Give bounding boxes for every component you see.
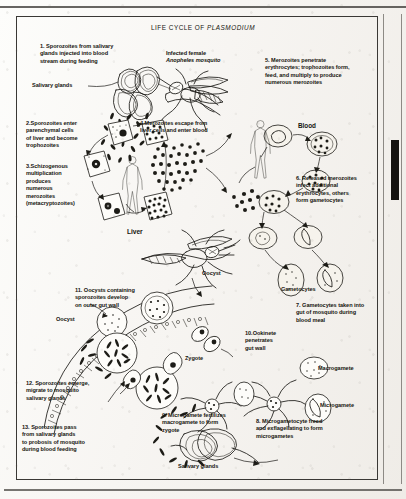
erythrocyte-series-art [232,125,343,296]
step-4-text: Merozoites escape from liver cells and e… [140,120,208,133]
arrow-merozoites-to-blood [206,136,230,156]
scan-top-rule [0,6,406,8]
step-9-callout: 9. Microgamete fertilizes macrogamete to… [162,412,252,434]
leader-oocyst-pointer [192,278,200,294]
rbc-ring-stage [264,125,292,147]
step-12-callout: 12. Sporozoites emerge, migrate to mosqu… [26,380,118,402]
free-merozoites-blood [232,189,260,212]
step-6-text: Released merozoites infect additional er… [296,175,357,203]
gametocytes-label: Gametocytes [281,286,316,293]
merozoite-burst-cloud [151,142,205,192]
salivary-glands-top-label: Salivary glands [32,82,72,89]
step-3-callout: 3.Schizogenous multiplication produces n… [26,163,102,207]
step-9-text: Microgamete fertilizes macrogamete to fo… [162,412,226,433]
step-12-number: 12. [26,380,34,386]
gametocyte-micro [317,264,343,292]
step-6-callout: 6. Released merozoites infect additional… [296,175,388,205]
leader-blood-label [261,147,267,157]
step-3-text: Schizogenous multiplication produces num… [26,163,75,206]
step-8-callout: 8. Microgametocyte freed and exflagellat… [256,418,356,440]
step-11-callout: 11. Oocysts containing sporozoites devel… [75,287,167,309]
macrogamete-label: Macrogamete [318,365,354,372]
liver-cell-merozoites-packed [144,192,172,220]
oocyst-with-sporozoites-1 [97,333,137,373]
step-7-callout: 7. Gametocytes taken into gut of mosquit… [296,302,394,324]
microgamete-label: Microgamete [320,402,354,409]
rbc-trophozoite [307,132,337,156]
liver-cell-trophozoite [108,120,133,145]
mosquito-top-label: Infected femaleAnopheles mosquito [166,50,256,65]
step-6-number: 6. [296,175,301,181]
step-5-text: Merozoites penetrate erythrocytes; troph… [265,57,350,85]
step-11-number: 11. [75,287,82,293]
scan-right-edge-line-outer [401,14,402,484]
step-9-number: 9. [162,412,167,418]
rbc-gametocyte-developing-1 [249,227,277,249]
scan-bottom-rule [4,489,402,491]
scan-dark-artifact-bar [391,140,399,200]
step-8-number: 8. [256,418,261,424]
step-11-text: Oocysts containing sporozoites develop o… [75,287,135,308]
step-2-text: Sporozoites enter parenchymal cells of l… [26,120,78,148]
salivary-glands-bottom-label: Salivary glands [178,463,218,470]
step-2-callout: 2.Sporozoites enter parenchymal cells of… [26,120,106,150]
step-1-text: Sporozoites from salivary glands injecte… [40,43,113,64]
ookinete-art [189,324,233,357]
step-7-number: 7. [296,302,301,308]
mosquito-label-line1: Infected female [166,50,206,56]
step-5-number: 5. [265,57,270,63]
step-1-number: 1. [40,43,45,49]
step-12-text: Sporozoites emerge, migrate to mosquito … [26,380,89,401]
anopheles-mosquito-mid-art [142,230,240,288]
step-7-text: Gametocytes taken into gut of mosquito d… [296,302,364,323]
oocyst-small [97,307,127,337]
human-figure-liver [123,157,143,215]
step-1-callout: 1. Sporozoites from salivary glands inje… [40,43,145,65]
step-13-text: Sporozoites pass from salivary glands to… [22,424,85,452]
step-13-number: 13. [22,424,30,430]
mosquito-label-line2: Anopheles mosquito [166,57,220,63]
step-8-text: Microgametocyte freed and exflagellating… [256,418,323,439]
scan-right-edge-line [383,14,384,484]
rbc-gametocyte-developing-2 [294,226,322,249]
step-5-callout: 5. Merozoites penetrate erythrocytes; tr… [265,57,383,87]
oocyst-label: Oocyst [56,316,75,323]
liver-label: Liver [127,228,143,235]
zygote-label: Zygote [185,355,203,362]
step-10-number: 10. [245,330,253,336]
oocyst-pointer-label: Oocyst [202,270,221,277]
step-10-callout: 10.Ookinete penetrates gut wall [245,330,305,352]
blood-label: Blood [298,122,316,129]
step-4-callout: 4.Merozoites escape from liver cells and… [140,120,250,135]
macrogamete-center [234,382,254,406]
step-13-callout: 13. Sporozoites pass from salivary gland… [22,424,120,454]
